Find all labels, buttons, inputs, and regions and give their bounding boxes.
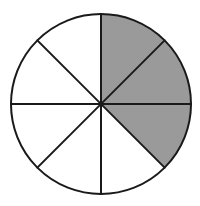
fraction-circle-figure <box>0 0 200 206</box>
fraction-circle-diagram <box>0 0 200 206</box>
